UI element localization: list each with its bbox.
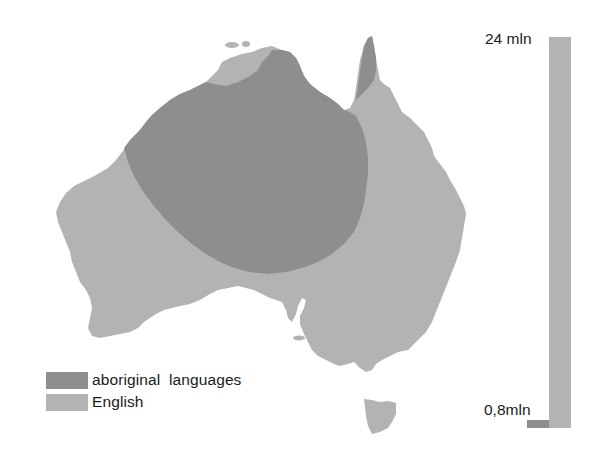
tasmania — [364, 399, 396, 434]
island — [293, 336, 305, 341]
legend: aboriginal languages English — [46, 369, 241, 413]
legend-label-english: English — [92, 393, 144, 411]
aboriginal-speakers-bar — [527, 420, 549, 428]
island — [242, 41, 250, 47]
bar-bottom-label: 0,8mln — [484, 401, 531, 419]
english-speakers-bar — [549, 37, 571, 428]
legend-item-aboriginal: aboriginal languages — [46, 369, 241, 391]
bar-top-label: 24 mln — [485, 30, 532, 48]
legend-item-english: English — [46, 391, 241, 413]
legend-swatch-aboriginal — [46, 372, 88, 389]
island — [225, 42, 239, 48]
legend-label-aboriginal: aboriginal languages — [92, 371, 241, 389]
legend-swatch-english — [46, 394, 88, 411]
